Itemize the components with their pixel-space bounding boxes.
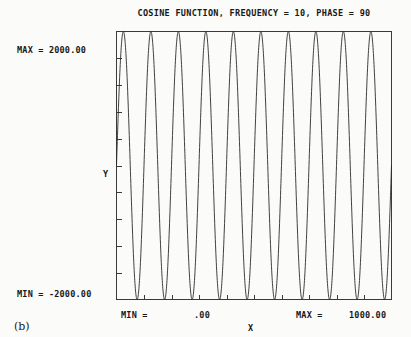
y-axis-title: Y: [103, 169, 108, 179]
x-axis-min-label: MIN =: [121, 310, 148, 320]
plot-area: [116, 31, 392, 300]
figure-caption: (b): [14, 320, 30, 333]
x-axis-ticks: [145, 295, 365, 300]
x-axis-zero-label: .00: [194, 310, 210, 320]
y-axis-min-label: MIN = -2000.00: [17, 289, 91, 299]
x-axis-title: X: [248, 323, 253, 333]
plot-title: COSINE FUNCTION, FREQUENCY = 10, PHASE =…: [116, 8, 392, 18]
x-axis-max-label: MAX =: [296, 310, 323, 320]
y-axis-max-label: MAX = 2000.00: [17, 45, 86, 55]
figure-screenshot: COSINE FUNCTION, FREQUENCY = 10, PHASE =…: [0, 0, 411, 337]
x-axis-max-value: 1000.00: [349, 310, 386, 320]
plot-canvas: [116, 31, 392, 300]
cosine-curve: [117, 32, 392, 300]
